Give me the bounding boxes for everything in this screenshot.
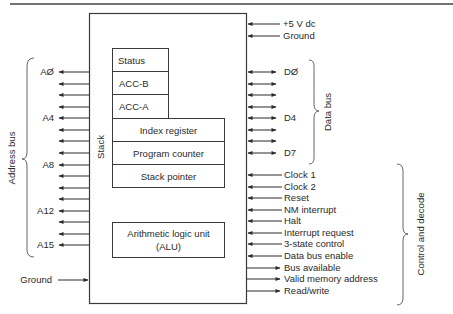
address-label-a0: AØ [40, 66, 54, 77]
address-label-a15: A15 [37, 239, 54, 250]
control-brace [397, 164, 408, 305]
address-label-a12: A12 [37, 205, 54, 216]
acc-b-label: ACC-B [119, 78, 149, 89]
control-lines [247, 175, 282, 291]
signal-clock1: Clock 1 [284, 169, 316, 180]
acc-a-label: ACC-A [119, 101, 149, 112]
data-label-d7: D7 [284, 147, 296, 158]
signal-clock2: Clock 2 [284, 181, 316, 192]
stack-label: Stack [95, 135, 106, 159]
signal-nm-interrupt: NM interrupt [284, 204, 337, 215]
signal-read-write: Read/write [284, 285, 329, 296]
data-label-d0: DØ [284, 66, 299, 77]
data-bus-lines [248, 72, 276, 153]
signal-valid-memory-address: Valid memory address [284, 273, 378, 284]
signal-interrupt-request: Interrupt request [284, 227, 354, 238]
microprocessor-diagram: Status ACC-B ACC-A Index register Progra… [0, 0, 453, 314]
data-bus-label: Data bus [322, 93, 333, 131]
stack-pointer-label: Stack pointer [141, 171, 196, 182]
alu-label-line2: (ALU) [156, 241, 181, 252]
status-register-label: Status [118, 55, 145, 66]
address-bus-lines [59, 72, 89, 245]
ground-label: Ground [283, 30, 315, 41]
data-bus-brace [309, 60, 319, 164]
program-counter-label: Program counter [133, 148, 204, 159]
signal-halt: Halt [284, 215, 301, 226]
power-label: +5 V dc [283, 18, 316, 29]
address-label-a8: A8 [42, 159, 54, 170]
alu-label-line1: Arithmetic logic unit [127, 228, 210, 239]
signal-3state-control: 3-state control [284, 238, 344, 249]
signal-bus-available: Bus available [284, 262, 341, 273]
index-register-label: Index register [140, 125, 198, 136]
control-and-decode-label: Control and decode [415, 193, 426, 276]
left-ground-label: Ground [20, 274, 52, 285]
address-bus-brace [22, 58, 34, 257]
register-block: Status ACC-B ACC-A Index register Progra… [113, 49, 225, 258]
data-label-d4: D4 [284, 112, 296, 123]
address-label-a4: A4 [42, 112, 54, 123]
address-bus-label: Address bus [6, 131, 17, 184]
signal-data-bus-enable: Data bus enable [284, 250, 353, 261]
signal-reset: Reset [284, 192, 309, 203]
